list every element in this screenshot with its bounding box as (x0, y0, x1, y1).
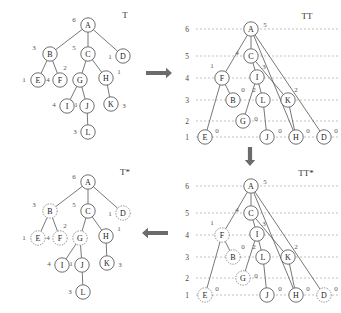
node-label: F (58, 234, 63, 243)
tree-node[interactable]: B0 (226, 243, 245, 264)
tree-node[interactable]: E0 (198, 285, 219, 302)
node-weight-label: 2 (252, 86, 256, 94)
tree-node[interactable]: D1 (108, 49, 130, 63)
tree-node[interactable]: C5 (72, 44, 95, 61)
node-weight-label: 3 (73, 128, 77, 136)
tree-edge (207, 242, 220, 288)
tree-edge (53, 218, 58, 231)
tree-node[interactable]: H1 (99, 225, 121, 243)
tree-node[interactable]: L3 (68, 285, 90, 299)
axis-tick-label: 1 (185, 133, 189, 142)
axis-tick-label: 4 (185, 74, 189, 83)
node-label: L (86, 128, 91, 137)
panel-title-Tstar: T* (120, 167, 130, 177)
tree-node[interactable]: D0 (317, 285, 338, 302)
tree-node[interactable]: A5 (244, 178, 267, 193)
tree-node[interactable]: A6 (72, 173, 95, 189)
tree-edge (66, 244, 76, 259)
tree-node[interactable]: J0 (260, 285, 282, 302)
tree-edge (253, 220, 255, 227)
node-weight-label: 6 (72, 173, 76, 181)
tree-node[interactable]: J1 (69, 258, 89, 272)
node-label: K (285, 96, 291, 105)
node-label: L (261, 253, 266, 262)
node-label: H (103, 232, 109, 241)
tree-node[interactable]: H0 (289, 285, 310, 302)
node-weight-label: 4 (46, 234, 50, 242)
tree-node[interactable]: E0 (198, 127, 219, 144)
node-label: B (230, 253, 235, 262)
tree-edge (93, 187, 117, 208)
node-weight-label: 0 (334, 127, 338, 135)
node-label: H (103, 74, 109, 83)
tree-node[interactable]: I4 (52, 99, 74, 113)
node-label: I (66, 102, 69, 111)
node-label: I (61, 261, 64, 270)
node-weight-label: 1 (108, 210, 112, 218)
node-label: L (81, 288, 86, 297)
node-weight-label: 3 (262, 220, 266, 228)
tree-node[interactable]: B0 (226, 86, 245, 107)
tree-edge (92, 60, 101, 72)
tree-node[interactable]: F1 (210, 62, 229, 85)
tree-node[interactable]: G0 (236, 271, 258, 285)
tree-node[interactable]: B3 (32, 44, 57, 61)
tree-node[interactable]: H0 (289, 127, 310, 144)
tree-node[interactable]: I4 (47, 258, 69, 272)
node-weight-label: 0 (254, 115, 258, 123)
tree-node[interactable]: F4 (46, 231, 67, 245)
panel-title-TT: TT (302, 11, 313, 21)
node-label: J (265, 291, 268, 300)
tree-node[interactable]: I3 (250, 220, 266, 241)
tree-edge (93, 30, 117, 51)
tree-node[interactable]: B3 (32, 201, 57, 218)
tree-node[interactable]: C4 (235, 206, 258, 220)
tree-node[interactable]: K2 (281, 243, 298, 264)
tree-node[interactable]: C5 (72, 201, 95, 218)
node-label: J (80, 261, 83, 270)
tree-node[interactable]: F4 (46, 73, 67, 87)
tree-edge (225, 241, 230, 250)
tree-node[interactable]: H1 (99, 68, 121, 85)
tree-edge (53, 61, 58, 74)
tree-node[interactable]: E1 (22, 231, 45, 245)
node-weight-label: 3 (118, 261, 122, 269)
tree-node[interactable]: L2 (252, 243, 270, 264)
node-weight-label: 0 (334, 285, 338, 293)
arrow-glyph (146, 68, 172, 78)
tree-node[interactable]: C4 (235, 49, 258, 63)
tree-node[interactable]: L2 (252, 86, 270, 107)
tree-node[interactable]: G0 (236, 114, 258, 128)
node-label: D (120, 52, 126, 61)
tree-node[interactable]: A6 (72, 16, 95, 32)
tree-node[interactable]: J0 (260, 127, 282, 144)
node-weight-label: 1 (210, 62, 214, 70)
node-label: C (248, 52, 253, 61)
node-weight-label: 2 (294, 86, 298, 94)
axis-tick-label: 3 (185, 96, 189, 105)
tree-edge (225, 84, 230, 93)
node-weight-label: 2 (63, 222, 67, 230)
tree-node[interactable]: L3 (73, 125, 95, 139)
tree-panel-Tstar: A6B3C5D1E1F4G2H1I4J1K3L3T* (22, 167, 130, 299)
node-weight-label: 1 (22, 234, 26, 242)
tree-node[interactable]: K3 (104, 97, 126, 111)
tree-edge (70, 86, 77, 99)
tree-node[interactable]: I3 (250, 63, 266, 84)
tree-node[interactable]: J1 (74, 99, 94, 113)
node-weight-label: 1 (74, 101, 78, 109)
tree-node[interactable]: K2 (281, 86, 298, 107)
tree-node[interactable]: E1 (22, 73, 45, 87)
node-weight-label: 0 (306, 285, 310, 293)
tree-node[interactable]: K3 (100, 256, 122, 270)
tree-edge (92, 217, 102, 230)
node-label: K (285, 253, 291, 262)
tree-node[interactable]: F1 (210, 219, 229, 242)
arrow-glyph (142, 228, 168, 238)
node-label: G (77, 234, 83, 243)
tree-node[interactable]: D0 (317, 127, 338, 144)
tree-node[interactable]: D1 (108, 206, 130, 220)
node-label: E (203, 133, 208, 142)
node-weight-label: 6 (72, 16, 76, 24)
tree-node[interactable]: A5 (244, 21, 267, 36)
